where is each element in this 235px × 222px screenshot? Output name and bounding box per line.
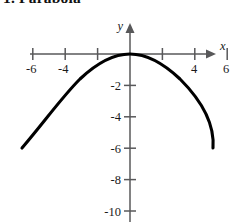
y-tick-label--6: -6 [111, 142, 121, 156]
parabola-plot: -6 -4 4 6 -2 -4 -6 -8 -10 -12 y x [0, 0, 235, 222]
x-axis-label: x [219, 39, 226, 53]
x-tick-label-6: 6 [223, 62, 229, 76]
figure-title-strip: 1. Parabola [0, 0, 235, 9]
y-axis-arrowhead [126, 23, 135, 33]
y-tick-label--8: -8 [111, 173, 121, 187]
page-title: 1. Parabola [3, 0, 81, 7]
parabola-curve [22, 54, 213, 148]
y-tick-label--10: -10 [104, 205, 121, 219]
y-axis-label: y [115, 19, 123, 33]
x-axis-arrowhead [206, 50, 216, 59]
y-tick-label--4: -4 [111, 110, 122, 124]
y-tick-label--2: -2 [111, 79, 121, 93]
parabola-figure: 1. Parabola -6 -4 4 6 -2 -4 -6 -8 [0, 0, 235, 222]
x-tick-label-4: 4 [191, 62, 198, 76]
x-tick-label--4: -4 [58, 62, 69, 76]
x-tick-label--6: -6 [26, 62, 36, 76]
